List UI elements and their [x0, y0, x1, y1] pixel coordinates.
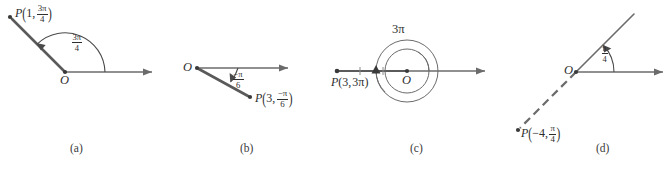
point-p-c	[335, 69, 340, 74]
angle-label-d: π4	[601, 44, 608, 63]
point-label-d-theta-den: 4	[549, 135, 555, 144]
panel-d: O P(−4, π4) π4 (d)	[500, 0, 672, 169]
panel-b-graphic	[170, 0, 340, 169]
point-label-c-theta: 3π	[352, 75, 364, 89]
point-label-d-theta-num: π	[549, 124, 555, 133]
point-label-a-theta-num: 3π	[37, 4, 48, 13]
point-label-c: P(3, 3π)	[331, 76, 368, 88]
polar-axis-a	[65, 68, 152, 75]
angle-label-c: 3π	[392, 23, 405, 36]
point-label-a: P(1, 3π4)	[15, 4, 52, 24]
origin-label-a: O	[60, 74, 69, 87]
point-p-d	[516, 128, 520, 132]
caption-b: (b)	[240, 142, 253, 154]
angle-label-a-num: 3π	[72, 33, 83, 42]
point-p-a	[8, 15, 12, 19]
angle-label-d-den: 4	[602, 55, 608, 64]
point-label-b-theta-den: 6	[277, 100, 289, 109]
point-label-a-theta-den: 4	[37, 15, 48, 24]
angle-label-a-den: 4	[72, 44, 83, 53]
point-label-a-name: P	[15, 6, 22, 20]
origin-label-b: O	[183, 61, 192, 74]
radial-segment-c	[337, 67, 407, 75]
point-p-b	[248, 95, 252, 99]
angle-label-a: 3π4	[71, 33, 83, 52]
panel-c: O P(3, 3π) 3π (c)	[330, 0, 510, 169]
point-label-d: P(−4, π4)	[521, 124, 560, 144]
origin-label-c: O	[402, 74, 411, 87]
origin-point-d	[574, 70, 578, 74]
point-label-b-name: P	[255, 91, 262, 105]
dashed-extension-d	[520, 72, 576, 128]
caption-a: (a)	[70, 142, 83, 154]
point-label-d-r: −4	[532, 126, 545, 140]
angle-label-d-num: π	[602, 44, 608, 53]
caption-d: (d)	[596, 142, 609, 154]
angle-label-b-den: 6	[233, 81, 244, 90]
panel-a: O P(1, 3π4) 3π4 (a)	[0, 0, 170, 169]
panel-b: O P(3, −π6) −π6 (b)	[170, 0, 340, 169]
caption-c: (c)	[410, 142, 423, 154]
polar-plots-figure: O P(1, 3π4) 3π4 (a)	[0, 0, 672, 169]
origin-point-b	[195, 66, 199, 70]
panel-a-graphic	[0, 0, 170, 169]
angle-label-b-num: −π	[233, 70, 244, 79]
point-label-d-name: P	[521, 126, 528, 140]
point-label-b-theta-num: −π	[277, 89, 289, 98]
point-label-b: P(3, −π6)	[255, 89, 292, 109]
origin-label-d: O	[564, 64, 573, 77]
angle-label-b: −π6	[232, 70, 244, 89]
polar-axis-d	[576, 68, 663, 75]
